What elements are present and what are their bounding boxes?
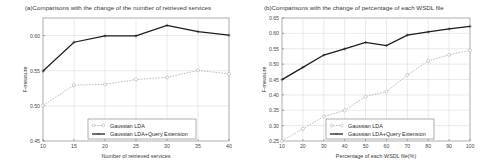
series-marker (469, 49, 472, 52)
x-tick-label: 20 (102, 143, 108, 149)
x-tick-label: 30 (164, 143, 170, 149)
legend-label: Gaussian LDA (348, 123, 383, 129)
x-axis-label: Percentage of each WSDL file(%) (336, 153, 417, 159)
y-axis-label: F-measure (22, 66, 28, 92)
series-marker (104, 83, 107, 86)
x-tick-label: 60 (384, 143, 390, 149)
y-tick-label: 0.45 (269, 77, 279, 83)
legend-label: Gaussian LDA+Query Extension (110, 131, 188, 137)
y-tick-label: 0.60 (269, 30, 279, 36)
chart-title: (b)Comparisons with the change of percen… (264, 4, 444, 11)
figure-container: (a)Comparisons with the change of the nu… (0, 0, 482, 168)
y-tick-label: 0.30 (269, 123, 279, 129)
x-tick-label: 40 (226, 143, 232, 149)
y-tick-label: 0.55 (30, 68, 40, 74)
series-marker (406, 74, 409, 77)
series-marker (228, 72, 231, 75)
series-marker (343, 109, 346, 112)
series-marker (448, 53, 451, 56)
y-tick-label: 0.40 (269, 92, 279, 98)
series-marker (73, 84, 76, 87)
y-tick-label: 0.35 (269, 107, 279, 113)
series-marker (322, 115, 325, 118)
y-tick-label: 0.50 (30, 103, 40, 109)
legend-marker (330, 124, 333, 127)
legend-marker (92, 124, 95, 127)
series-marker (281, 139, 284, 142)
series-marker (427, 59, 430, 62)
chart-legend: Gaussian LDAGaussian LDA+Query Extension (88, 119, 196, 139)
series-marker (385, 90, 388, 93)
y-tick-label: 0.25 (269, 138, 279, 144)
chart-panel-a: (a)Comparisons with the change of the nu… (0, 0, 241, 168)
legend-marker (102, 124, 105, 127)
series-marker (197, 69, 200, 72)
legend-label: Gaussian LDA (110, 123, 145, 129)
x-tick-label: 10 (279, 143, 285, 149)
series-marker (135, 78, 138, 81)
x-tick-label: 90 (446, 143, 452, 149)
x-tick-label: 35 (195, 143, 201, 149)
y-tick-label: 0.45 (30, 138, 40, 144)
legend-marker (340, 124, 343, 127)
x-tick-label: 50 (363, 143, 369, 149)
y-tick-label: 0.55 (269, 46, 279, 52)
chart-svg-panel-a: (a)Comparisons with the change of the nu… (0, 0, 241, 168)
series-marker (166, 76, 169, 79)
x-tick-label: 100 (466, 143, 475, 149)
x-tick-label: 20 (300, 143, 306, 149)
x-tick-label: 80 (425, 143, 431, 149)
x-tick-label: 30 (321, 143, 327, 149)
chart-svg-panel-b: (b)Comparisons with the change of percen… (241, 0, 482, 168)
y-tick-label: 0.60 (30, 33, 40, 39)
legend-label: Gaussian LDA+Query Extension (348, 131, 426, 137)
series-marker (301, 127, 304, 130)
x-axis-label: Number of retrieved services (102, 153, 171, 159)
chart-legend: Gaussian LDAGaussian LDA+Query Extension (326, 119, 434, 139)
y-axis-label: F-measure (261, 66, 267, 92)
x-tick-label: 25 (133, 143, 139, 149)
y-tick-label: 0.50 (269, 61, 279, 67)
x-tick-label: 40 (342, 143, 348, 149)
series-marker (42, 104, 45, 107)
chart-panel-b: (b)Comparisons with the change of percen… (241, 0, 482, 168)
y-tick-label: 0.65 (269, 15, 279, 21)
chart-title: (a)Comparisons with the change of the nu… (25, 4, 211, 11)
series-marker (364, 95, 367, 98)
x-tick-label: 10 (40, 143, 46, 149)
x-tick-label: 70 (404, 143, 410, 149)
x-tick-label: 15 (71, 143, 77, 149)
